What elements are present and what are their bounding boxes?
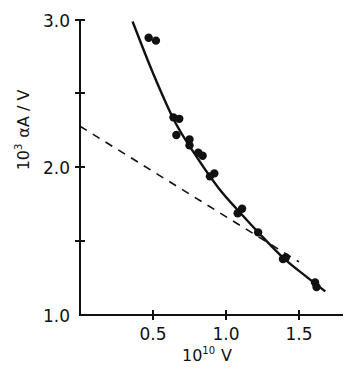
data-point (210, 169, 218, 177)
x-axis-label-exp: 10 (202, 345, 215, 356)
y-axis-label: 103αA / V (13, 90, 33, 171)
data-point (172, 131, 180, 139)
x-tick-label-1.0: 1.0 (212, 324, 239, 344)
y-axis-label-exp: 3 (13, 144, 24, 150)
fitted-curve-path (133, 21, 326, 291)
x-tick-label-0.5: 0.5 (139, 324, 166, 344)
y-tick-label-3.0: 3.0 (43, 11, 70, 31)
y-tick-label-2.0: 2.0 (43, 158, 70, 178)
data-points (144, 34, 320, 292)
y-axis-label-base: 10 (14, 150, 33, 170)
x-axis-label-base: 10 (182, 346, 202, 365)
y-axis-label-rest: αA / V (14, 90, 33, 138)
x-axis-label: 1010V (182, 345, 232, 365)
data-point (282, 253, 290, 261)
data-point (152, 36, 160, 44)
data-point (238, 205, 246, 213)
y-tick-label-1.0: 1.0 (43, 306, 70, 326)
data-point (144, 34, 152, 42)
data-point (185, 141, 193, 149)
data-point (312, 283, 320, 291)
x-tick-label-1.5: 1.5 (285, 324, 312, 344)
data-point (175, 115, 183, 123)
data-point (198, 152, 206, 160)
data-point (254, 228, 262, 236)
chart: 3.0 2.0 1.0 0.5 1.0 1.5 1010V 103αA / V (0, 0, 355, 378)
x-axis-label-var: V (221, 346, 232, 365)
fitted-curve (133, 21, 326, 291)
